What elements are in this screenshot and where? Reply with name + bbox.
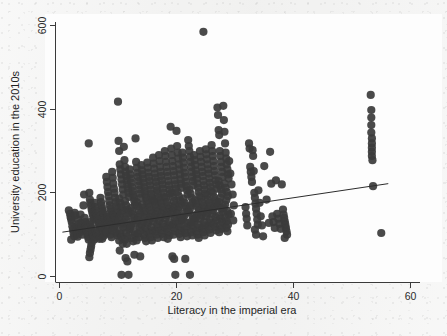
data-point bbox=[98, 235, 106, 243]
data-point bbox=[220, 116, 228, 124]
data-point bbox=[225, 157, 233, 165]
data-point bbox=[252, 231, 260, 239]
data-point bbox=[171, 271, 179, 279]
data-point bbox=[230, 201, 238, 209]
data-point bbox=[170, 255, 178, 263]
scatter-plot-figure: 600 400 200 0 University education in th… bbox=[0, 0, 447, 336]
y-ticklabel-200: 200 bbox=[36, 184, 48, 202]
data-point bbox=[215, 228, 223, 236]
data-point bbox=[249, 152, 257, 160]
figure-container: 600 400 200 0 University education in th… bbox=[0, 0, 447, 336]
data-point bbox=[116, 246, 124, 254]
y-axis-ticks bbox=[50, 26, 56, 277]
data-point bbox=[172, 127, 180, 135]
data-point bbox=[258, 221, 266, 229]
data-point bbox=[368, 156, 376, 164]
data-point bbox=[131, 134, 139, 142]
data-point bbox=[181, 255, 189, 263]
data-point bbox=[377, 229, 385, 237]
x-axis-title: Literacy in the imperial era bbox=[167, 304, 297, 316]
data-point bbox=[281, 234, 289, 242]
data-point bbox=[254, 186, 262, 194]
data-point bbox=[266, 148, 274, 156]
data-point bbox=[221, 139, 229, 147]
y-axis-title: University education in the 2010s bbox=[9, 70, 21, 233]
data-point bbox=[367, 91, 375, 99]
y-axis-ticklabels: 600 400 200 0 bbox=[36, 17, 48, 280]
data-point bbox=[367, 113, 375, 121]
y-ticklabel-0: 0 bbox=[36, 273, 48, 279]
data-point bbox=[79, 201, 87, 209]
scatter-points-layer bbox=[65, 28, 386, 279]
plot-axes bbox=[56, 22, 421, 283]
data-point bbox=[250, 167, 258, 175]
data-point bbox=[248, 178, 256, 186]
data-point bbox=[220, 128, 228, 136]
data-point bbox=[219, 102, 227, 110]
data-point bbox=[243, 221, 251, 229]
data-point bbox=[223, 227, 231, 235]
data-point bbox=[120, 143, 128, 151]
x-ticklabel-20: 20 bbox=[171, 290, 183, 302]
data-point bbox=[117, 271, 125, 279]
data-point bbox=[136, 252, 144, 260]
data-point bbox=[85, 139, 93, 147]
data-point bbox=[257, 212, 265, 220]
data-point bbox=[114, 98, 122, 106]
data-point bbox=[260, 162, 268, 170]
data-point bbox=[123, 257, 131, 265]
data-point bbox=[124, 271, 132, 279]
x-axis-ticklabels: 0 20 40 60 bbox=[57, 290, 417, 302]
data-point bbox=[229, 190, 237, 198]
y-ticklabel-600: 600 bbox=[36, 17, 48, 35]
data-point bbox=[226, 169, 234, 177]
x-ticklabel-0: 0 bbox=[57, 290, 63, 302]
data-point bbox=[227, 180, 235, 188]
data-point bbox=[259, 232, 267, 240]
x-axis-ticks bbox=[60, 283, 411, 289]
data-point bbox=[186, 271, 194, 279]
x-ticklabel-40: 40 bbox=[288, 290, 300, 302]
x-ticklabel-60: 60 bbox=[405, 290, 417, 302]
data-point bbox=[278, 180, 286, 188]
y-ticklabel-400: 400 bbox=[36, 101, 48, 119]
data-point bbox=[367, 106, 375, 114]
data-point bbox=[229, 216, 237, 224]
data-point bbox=[85, 253, 93, 261]
data-point bbox=[133, 236, 141, 244]
data-point bbox=[199, 28, 207, 36]
data-point bbox=[367, 121, 375, 129]
